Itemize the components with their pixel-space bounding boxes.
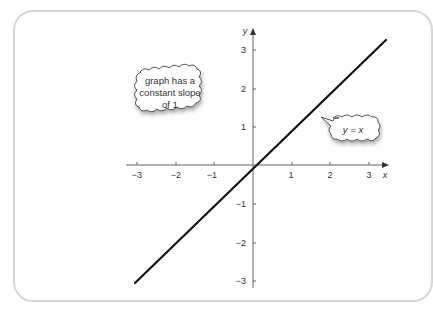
x-axis-arrow-icon — [382, 162, 389, 168]
y-tick-label: −1 — [236, 199, 246, 209]
y-tick-label: 2 — [241, 84, 246, 94]
x-tick-label: −2 — [171, 170, 181, 180]
x-tick-label: 2 — [327, 170, 332, 180]
x-tick-label: 1 — [288, 170, 293, 180]
y-axis-label: y — [242, 26, 248, 36]
x-tick-label: −3 — [132, 170, 142, 180]
slope-callout-line-1: graph has a — [145, 75, 196, 86]
y-tick-label: 3 — [241, 45, 246, 55]
slope-callout-line-2: constant slope — [139, 87, 200, 98]
equation-callout-text: y = x — [342, 124, 365, 135]
y-tick-label: −3 — [236, 276, 246, 286]
y-tick-label: −2 — [236, 238, 246, 248]
x-tick-label: 3 — [366, 170, 371, 180]
y-axis: 3 2 1 −1 −2 −3 y — [236, 26, 256, 288]
x-axis-label: x — [382, 170, 388, 180]
y-axis-arrow-icon — [250, 28, 256, 35]
slope-callout-line-3: of 1 — [162, 99, 178, 110]
x-tick-label: −1 — [207, 170, 217, 180]
y-tick-label: 1 — [241, 122, 246, 132]
